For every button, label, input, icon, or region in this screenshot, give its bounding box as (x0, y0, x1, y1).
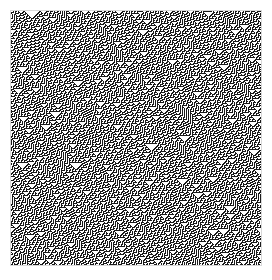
cellular-automaton-raster (11, 11, 261, 265)
figure-root (0, 0, 272, 280)
cellular-automaton-plot-area (10, 10, 262, 266)
